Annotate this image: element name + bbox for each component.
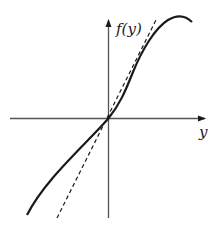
solid-curve (27, 16, 192, 215)
x-axis-label: y (198, 123, 208, 141)
function-plot: f(y) y (0, 0, 221, 229)
y-axis-label: f(y) (115, 20, 142, 38)
